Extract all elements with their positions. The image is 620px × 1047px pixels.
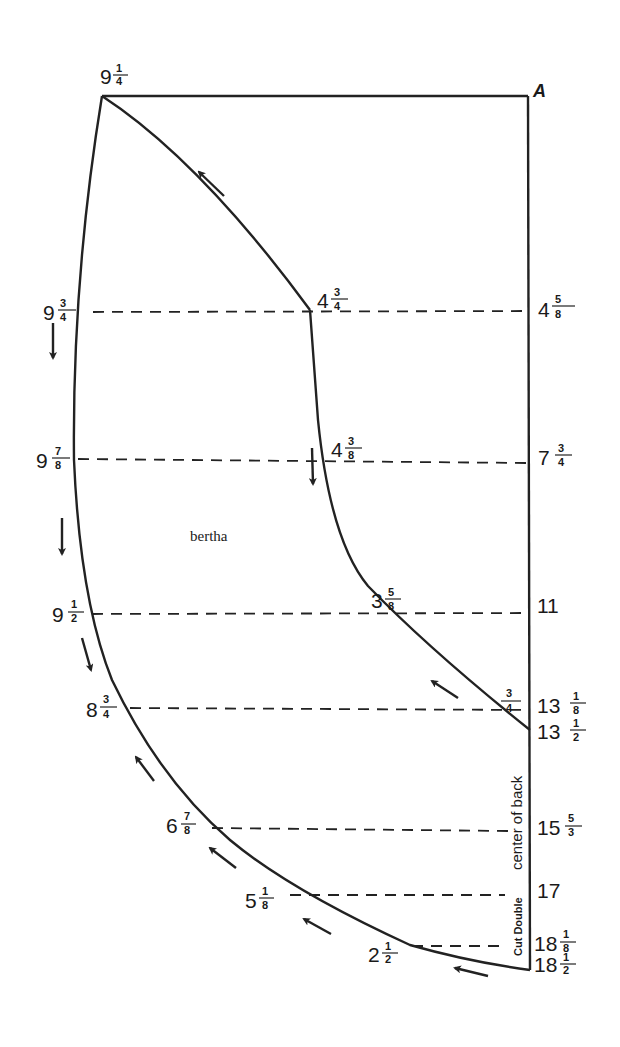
center-back-edge [528, 96, 530, 970]
svg-text:13: 13 [537, 694, 560, 717]
measure-label: 9 3 4 [43, 297, 76, 324]
svg-text:13: 13 [537, 720, 560, 743]
svg-text:8: 8 [86, 698, 98, 721]
svg-text:11: 11 [537, 594, 559, 617]
svg-text:6: 6 [166, 814, 178, 837]
svg-text:3: 3 [348, 435, 354, 447]
guide-line [130, 708, 528, 710]
svg-text:8: 8 [55, 459, 61, 471]
measure-label: 11 [537, 594, 559, 617]
measure-label: 5 1 8 [245, 885, 274, 912]
guide-line [78, 459, 528, 463]
svg-text:18: 18 [534, 953, 557, 976]
arrow-icon [82, 638, 91, 670]
svg-text:4: 4 [317, 289, 329, 312]
svg-text:4: 4 [506, 702, 513, 714]
neckline-curve [102, 96, 310, 310]
guide-line [212, 828, 510, 831]
svg-text:3: 3 [103, 693, 109, 705]
svg-text:15: 15 [537, 816, 560, 839]
measure-label: 4 5 8 [538, 293, 575, 321]
measure-label: 6 7 8 [166, 810, 196, 837]
svg-text:3: 3 [60, 297, 66, 309]
svg-text:4: 4 [558, 456, 565, 468]
measure-label: 13 1 2 [537, 717, 586, 743]
measure-label: 3 5 8 [371, 586, 401, 612]
center-of-back-label: center of back [508, 775, 525, 870]
svg-text:8: 8 [555, 308, 561, 320]
arrow-icon [210, 848, 236, 868]
svg-text:4: 4 [116, 75, 123, 87]
svg-text:4: 4 [331, 438, 343, 461]
arrow-icon [455, 968, 488, 976]
svg-text:4: 4 [334, 300, 341, 312]
svg-text:3: 3 [371, 589, 383, 612]
svg-text:9: 9 [43, 301, 55, 324]
svg-text:5: 5 [568, 812, 574, 824]
inner-measures: 4 3 4 4 3 8 3 5 8 3 4 [317, 286, 521, 714]
guide-lines [78, 311, 528, 946]
measure-label: 9 1 2 [52, 598, 84, 626]
measure-label: 18 1 2 [534, 951, 576, 976]
measure-label: 13 1 8 [537, 690, 586, 717]
svg-text:2: 2 [573, 731, 579, 743]
svg-text:5: 5 [245, 889, 257, 912]
svg-text:9: 9 [100, 65, 112, 88]
measure-label: 4 3 8 [331, 435, 362, 461]
svg-text:4: 4 [538, 298, 550, 321]
svg-text:9: 9 [36, 449, 48, 472]
svg-text:9: 9 [52, 603, 64, 626]
outer-edge [74, 96, 530, 970]
svg-text:8: 8 [262, 899, 268, 911]
measure-label: 4 3 4 [317, 286, 348, 312]
svg-text:7: 7 [184, 810, 190, 822]
measure-label: 8 3 4 [86, 693, 117, 721]
svg-text:4: 4 [60, 311, 67, 323]
direction-arrows [53, 172, 488, 976]
svg-text:8: 8 [388, 600, 394, 612]
arrow-icon [432, 681, 458, 698]
arrow-icon [312, 448, 313, 484]
guide-line [93, 311, 528, 312]
svg-text:1: 1 [71, 598, 77, 610]
cut-double-label: Cut Double [512, 897, 524, 956]
arrow-icon [199, 172, 224, 196]
svg-text:2: 2 [71, 612, 77, 624]
svg-text:7: 7 [538, 446, 550, 469]
left-measures: 9 3 4 9 7 8 9 1 2 8 3 4 6 7 8 [36, 297, 398, 966]
inner-edge [310, 310, 530, 730]
svg-text:8: 8 [573, 704, 579, 716]
measure-label: 7 3 4 [538, 442, 572, 469]
svg-text:1: 1 [262, 885, 268, 897]
svg-text:1: 1 [563, 928, 569, 940]
svg-text:1: 1 [563, 951, 569, 963]
measure-label: 18 1 8 [534, 928, 576, 955]
svg-text:1: 1 [116, 62, 122, 74]
measure-label: 9 1 4 [100, 62, 128, 88]
svg-text:1: 1 [573, 717, 579, 729]
svg-text:17: 17 [537, 879, 560, 902]
svg-text:2: 2 [368, 943, 380, 966]
svg-text:5: 5 [388, 586, 394, 598]
measure-label: 17 [537, 879, 560, 902]
svg-text:1: 1 [573, 690, 579, 702]
svg-text:2: 2 [385, 953, 391, 965]
measure-label: 15 5 3 [537, 812, 582, 839]
corner-label: A [532, 81, 546, 101]
svg-text:18: 18 [534, 932, 557, 955]
svg-text:2: 2 [563, 964, 569, 976]
svg-text:7: 7 [55, 445, 61, 457]
svg-text:3: 3 [558, 442, 564, 454]
svg-text:4: 4 [103, 708, 110, 720]
svg-text:3: 3 [334, 286, 340, 298]
svg-text:8: 8 [348, 449, 354, 461]
guide-line [92, 613, 528, 614]
pattern-outline [74, 96, 530, 970]
measure-label: 2 1 2 [368, 940, 398, 966]
svg-text:1: 1 [385, 940, 391, 952]
svg-text:5: 5 [555, 293, 561, 305]
bertha-pattern-diagram: A 9 1 4 9 3 4 9 7 8 9 1 2 8 3 4 [0, 0, 620, 1047]
right-measures: 4 5 8 7 3 4 11 13 1 8 13 1 2 15 5 [534, 293, 586, 976]
arrow-icon [304, 919, 331, 934]
svg-text:8: 8 [184, 824, 190, 836]
